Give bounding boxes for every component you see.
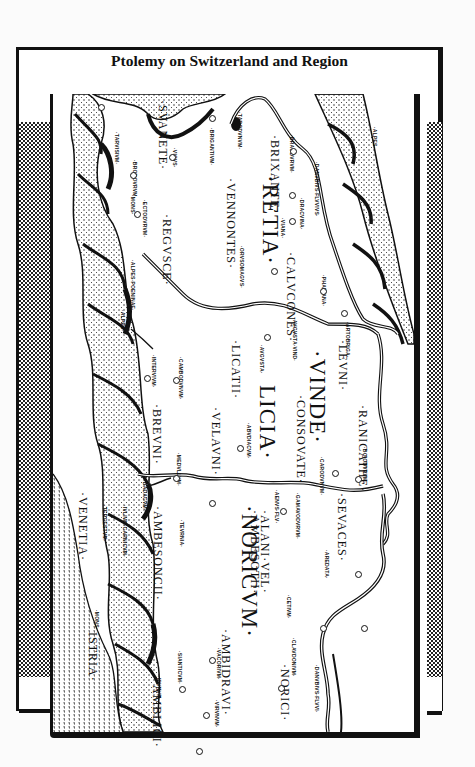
page-title: Ptolemy on Switzerland and Region (16, 52, 443, 70)
town-label: ·TARVISIVM· (114, 132, 120, 164)
town-marker-icon (209, 657, 216, 664)
town-label: ·ORVSOMAGVS· (239, 246, 245, 288)
town-label: ·CARODVNVM· (319, 457, 325, 495)
town-marker-icon (209, 500, 216, 507)
town-label: ·ABVDIACVM· (246, 423, 252, 459)
town-label: ·SIANTICVM· (177, 651, 183, 684)
town-label: ·IDVNVM· (156, 676, 162, 700)
people-label: ·AMBESOTII· (247, 510, 262, 594)
town-marker-icon (264, 334, 271, 341)
town-label: ·TEVRNIA· (179, 520, 185, 547)
town-label: ·ALPES·POENINAE· (130, 260, 136, 311)
town-label: ·VIANA· (280, 218, 286, 238)
town-marker-icon (209, 115, 216, 122)
right-frame-foot (427, 677, 442, 715)
town-label: ·AVGVSTA· (259, 345, 265, 374)
people-label: ·NORICI· (277, 664, 292, 721)
town-marker-icon (271, 268, 278, 275)
town-label: ·CETIVM· (286, 595, 292, 619)
town-label: ·IVLIVM·CARNICVM· (122, 505, 128, 557)
town-label: ·GAMAVODVRVM· (295, 493, 301, 539)
town-label: ·VACORIVM· (216, 648, 222, 680)
town-label: ·AREDATA· (324, 550, 330, 579)
right-checker-border (427, 122, 442, 677)
alps-mountain-chain-right (315, 94, 414, 344)
people-label: ·LICATII· (228, 340, 243, 399)
people-label: ·VELAVNI· (208, 407, 223, 476)
town-label: ·BRODOVRVM· (132, 160, 138, 199)
people-label: ·SVANETE· (155, 100, 170, 170)
town-label: ·BADACVM· (142, 480, 148, 511)
town-label: ·TARODVNVM· (237, 112, 243, 149)
town-label: ·TERGESTVM· (102, 505, 108, 542)
town-marker-icon (361, 625, 368, 632)
town-label: ·ARTOBRIGA· (345, 322, 351, 358)
left-frame-foot (19, 677, 50, 713)
left-checker-border (19, 122, 50, 677)
town-marker-icon (173, 475, 180, 482)
people-label: ·VENETIA· (75, 492, 90, 561)
town-marker-icon (179, 686, 186, 693)
town-label: ·BOIODVRVM· (362, 447, 368, 483)
town-marker-icon (134, 211, 141, 218)
town-marker-icon (278, 685, 285, 692)
town-label: ·MONS· (94, 610, 100, 630)
town-label: ·CLAVDONIVM· (291, 638, 297, 677)
town-label: ·BRIGANTIVM· (209, 128, 215, 165)
town-marker-icon (98, 104, 105, 111)
town-label: ·AVGVSTA·VIND· (292, 318, 298, 361)
people-label: ·REGVSCE· (159, 214, 174, 286)
town-marker-icon (196, 748, 203, 755)
town-marker-icon (130, 172, 137, 179)
people-label: ISTRIA· (85, 632, 100, 682)
people-label: ·SEVACES· (334, 493, 349, 562)
town-marker-icon (290, 148, 297, 155)
town-marker-icon (169, 154, 176, 161)
town-marker-icon (289, 192, 296, 199)
town-label: ·ALPES· (120, 310, 126, 331)
town-marker-icon (341, 310, 348, 317)
town-label: ·ECTODVRVM· (142, 200, 148, 237)
region-label: LICIA· (254, 385, 280, 460)
town-label: ·VIRVNVM· (214, 700, 220, 728)
town-marker-icon (144, 375, 151, 382)
town-marker-icon (332, 470, 339, 477)
town-marker-icon (320, 288, 327, 295)
town-marker-icon (320, 625, 327, 632)
people-label: ·BRIXANTE· (267, 135, 282, 214)
town-label: ·INTERVIVM· (151, 355, 157, 388)
people-label: ·VENNONTES· (223, 178, 238, 269)
town-marker-icon (355, 476, 362, 483)
town-label: ·AENVS·FLV· (274, 490, 280, 524)
people-label: ·AMBESONCII· (150, 506, 165, 601)
town-marker-icon (289, 218, 296, 225)
town-marker-icon (355, 571, 362, 578)
town-label: ·ALPES· (372, 127, 378, 148)
town-marker-icon (173, 377, 180, 384)
people-label: ·BREVNI· (149, 404, 164, 465)
town-label: ·DANVBIVS·FLVVI· (314, 665, 320, 713)
town-label: ·DANVBIVS·FLVVIVS· (314, 162, 320, 217)
people-label: ·CONSOVATE· (293, 395, 308, 484)
town-marker-icon (280, 508, 287, 515)
town-marker-icon (237, 445, 244, 452)
town-marker-icon (203, 712, 210, 719)
town-label: ·DRACVINA· (299, 198, 305, 230)
